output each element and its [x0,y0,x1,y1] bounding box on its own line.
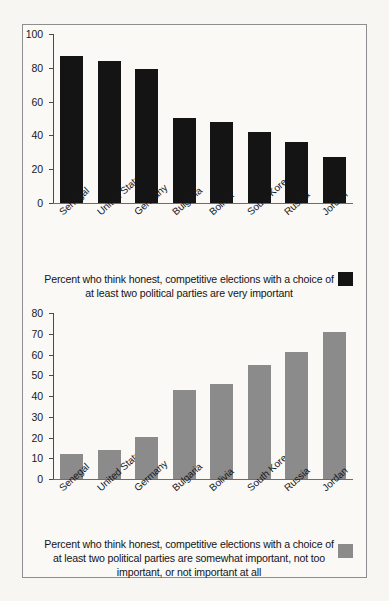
y-axis-tick [49,102,53,103]
bar [248,365,271,479]
y-axis-tick-label: 60 [17,350,43,360]
y-axis-tick [49,68,53,69]
y-axis-tick [49,334,53,335]
plot-area-bottom: 01020304050607080SenegalUnited StatesGer… [23,313,368,494]
plot-area-top: 020406080100SenegalUnited StatesGermanyB… [23,34,368,220]
y-axis-tick-label: 10 [17,453,43,463]
x-axis [53,479,353,480]
y-axis-tick [49,203,53,204]
y-axis-tick [49,313,53,314]
y-axis-tick-label: 20 [17,433,43,443]
y-axis-tick [49,135,53,136]
y-axis-tick-label: 30 [17,412,43,422]
x-axis [53,203,353,204]
y-axis-tick [49,417,53,418]
y-axis-tick [49,479,53,480]
figure-frame: 020406080100SenegalUnited StatesGermanyB… [22,24,367,578]
y-axis-tick [49,458,53,459]
y-axis-tick [49,355,53,356]
y-axis [53,34,54,203]
y-axis-tick-label: 40 [17,391,43,401]
chart-very-important: 020406080100SenegalUnited StatesGermanyB… [23,25,368,305]
legend-swatch-somewhat-important [338,544,353,558]
y-axis-tick-label: 70 [17,329,43,339]
y-axis-tick-label: 50 [17,370,43,380]
y-axis-tick-label: 0 [17,198,43,208]
bar [210,384,233,479]
y-axis-tick [49,375,53,376]
chart-somewhat-or-less-important: 01020304050607080SenegalUnited StatesGer… [23,306,368,579]
y-axis [53,313,54,479]
y-axis-tick [49,34,53,35]
bar [135,69,158,203]
bar [98,61,121,203]
y-axis-tick-label: 80 [17,308,43,318]
y-axis-tick-label: 60 [17,97,43,107]
legend-swatch-very-important [338,272,353,286]
y-axis-tick [49,169,53,170]
y-axis-tick-label: 20 [17,164,43,174]
chart-caption-top: Percent who think honest, competitive el… [43,272,335,300]
y-axis-tick-label: 100 [17,29,43,39]
bar [323,332,346,479]
chart-caption-bottom: Percent who think honest, competitive el… [43,537,335,580]
bar [285,352,308,479]
y-axis-tick-label: 0 [17,474,43,484]
y-axis-tick [49,438,53,439]
y-axis-tick-label: 40 [17,130,43,140]
y-axis-tick [49,396,53,397]
y-axis-tick-label: 80 [17,63,43,73]
bar [60,56,83,203]
